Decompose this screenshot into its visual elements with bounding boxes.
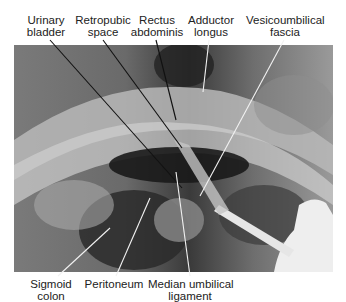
label-retropubic-space: Retropubic space: [74, 14, 132, 38]
label-median-umbilical-ligament: Median umbilical ligament: [148, 278, 232, 302]
label-sigmoid-colon: Sigmoid colon: [28, 278, 74, 302]
label-vesicoumbilical-fascia: Vesicoumbilical fascia: [246, 14, 324, 38]
label-urinary-bladder: Urinary bladder: [22, 14, 70, 38]
label-peritoneum: Peritoneum: [84, 278, 144, 290]
label-adductor-longus: Adductor longus: [186, 14, 236, 38]
dissection-photo: [14, 45, 333, 272]
label-rectus-abdominis: Rectus abdominis: [130, 14, 184, 38]
